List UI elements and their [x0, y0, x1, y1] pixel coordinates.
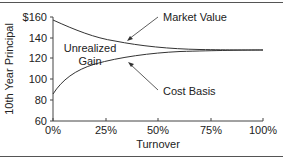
- x-tick-100: 100%: [249, 124, 277, 136]
- y-tick-80: 80: [35, 94, 47, 106]
- unrealized-gain-label-1: Unrealized: [64, 42, 117, 54]
- y-tick-120: 120: [29, 52, 47, 64]
- y-tick-labels: $160 140 120 100 80 60: [23, 11, 47, 127]
- y-tick-140: 140: [29, 32, 47, 44]
- x-axis-title: Turnover: [136, 138, 180, 150]
- cost-basis-label: Cost Basis: [163, 85, 216, 97]
- y-tick-100: 100: [29, 73, 47, 85]
- x-tick-labels: 0% 25% 50% 75% 100%: [45, 124, 277, 136]
- cost-basis-arrow: [130, 64, 158, 90]
- market-value-arrow: [129, 17, 158, 39]
- y-tick-160: $160: [23, 11, 47, 23]
- market-value-label: Market Value: [163, 11, 227, 23]
- cost-basis-arrowhead: [128, 62, 134, 67]
- chart: $160 140 120 100 80 60 0% 25% 50% 75% 10…: [0, 0, 283, 164]
- unrealized-gain-label-2: Gain: [78, 55, 101, 67]
- x-tick-0: 0%: [45, 124, 61, 136]
- x-tick-75: 75%: [200, 124, 222, 136]
- x-tick-50: 50%: [147, 124, 169, 136]
- y-axis-title: 10th Year Principal: [3, 23, 15, 115]
- x-tick-25: 25%: [95, 124, 117, 136]
